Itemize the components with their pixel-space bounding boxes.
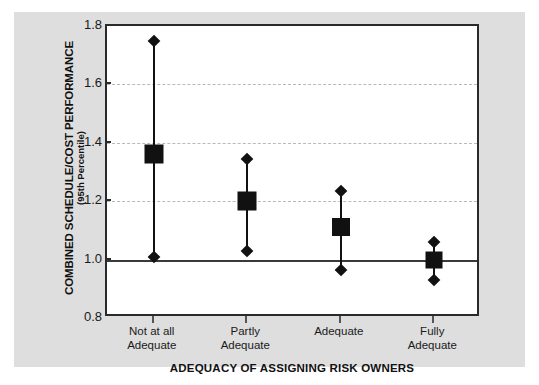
x-axis-title: ADEQUACY OF ASSIGNING RISK OWNERS [105, 362, 479, 374]
whisker-cap-upper [241, 152, 254, 165]
x-axis-tick-label-line: Fully [372, 325, 492, 339]
x-axis-tick-label-line: Adequate [185, 339, 305, 353]
whisker-cap-lower [241, 244, 254, 257]
x-axis-tick-mark [152, 316, 154, 323]
y-axis-tick-labels: 0.81.01.21.41.61.8 [60, 24, 102, 316]
y-axis-tick-label: 1.2 [68, 192, 102, 207]
data-point-marker [332, 218, 350, 236]
y-axis-tick-label: 1.4 [68, 133, 102, 148]
x-axis-tick-label-line: Adequate [372, 339, 492, 353]
gridline [107, 201, 477, 202]
data-point-marker [238, 192, 257, 211]
figure: COMBINED SCHEDULE/COST PERFORMANCE (95th… [0, 0, 539, 385]
gridline [107, 143, 477, 144]
whisker-cap-upper [334, 185, 347, 198]
y-axis-tick-label: 1.6 [68, 75, 102, 90]
y-axis-tick-label: 1.0 [68, 250, 102, 265]
y-axis-tick-mark [105, 199, 111, 201]
y-axis-tick-mark [105, 258, 111, 260]
whisker-cap-upper [428, 236, 441, 249]
whisker-cap-upper [147, 34, 160, 47]
y-axis-tick-label: 0.8 [68, 309, 102, 324]
data-point-marker [426, 251, 443, 268]
y-axis-tick-mark [105, 82, 111, 84]
x-axis-tick-mark [432, 316, 434, 323]
gridline [107, 84, 477, 85]
y-axis-tick-label: 1.8 [68, 17, 102, 32]
data-point-marker [144, 145, 163, 164]
x-axis-tick-mark [245, 316, 247, 323]
reference-line [107, 260, 477, 262]
y-axis-tick-mark [105, 141, 111, 143]
whisker-cap-lower [334, 263, 347, 276]
x-axis-tick-mark [339, 316, 341, 323]
plot-area [105, 24, 479, 316]
x-axis-tick-label: FullyAdequate [372, 325, 492, 352]
whisker-cap-lower [428, 274, 441, 287]
